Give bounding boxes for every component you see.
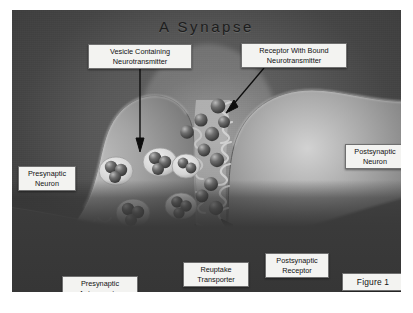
callout-reuptake-transporter: Reuptake Transporter	[183, 262, 249, 287]
figure-title: A Synapse	[12, 18, 401, 35]
neurotransmitter	[198, 144, 211, 157]
vesicle	[143, 148, 177, 176]
figure-caption-label: Figure 1	[342, 273, 401, 291]
callout-receptor-with-bound-neurotransmitter: Receptor With Bound Neurotransmitter	[241, 43, 347, 68]
callout-presynaptic-neuron: Presynaptic Neuron	[18, 166, 76, 191]
neurotransmitter	[210, 153, 224, 167]
synapse-illustration: A Synapse Vesicle Containing Neurotransm…	[12, 10, 401, 292]
figure-page: A Synapse Vesicle Containing Neurotransm…	[0, 0, 413, 313]
vesicle	[172, 154, 200, 178]
callout-vesicle-containing-neurotransmitter: Vesicle Containing Neurotransmitter	[88, 44, 192, 69]
neurotransmitter	[194, 113, 207, 126]
neurotransmitter	[205, 127, 219, 141]
callout-postsynaptic-neuron: Postsynaptic Neuron	[345, 144, 401, 169]
neurotransmitter	[211, 99, 226, 114]
callout-presynaptic-autoreceptor: Presynaptic Autoreceptor	[62, 276, 138, 292]
neurotransmitter	[218, 116, 230, 128]
callout-postsynaptic-receptor: Postsynaptic Receptor	[265, 253, 329, 278]
neurotransmitter	[180, 125, 194, 139]
